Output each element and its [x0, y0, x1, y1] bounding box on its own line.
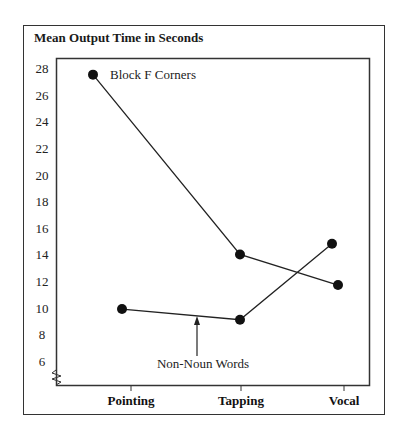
x-category-label: Vocal	[329, 393, 360, 408]
y-tick-label: 24	[36, 114, 50, 129]
series-line	[93, 75, 338, 285]
x-category-label: Pointing	[108, 393, 155, 408]
block-f-corners-label: Block F Corners	[110, 67, 196, 82]
x-axis-ticks: PointingTappingVocal	[108, 386, 360, 408]
non-noun-words-label: Non-Noun Words	[157, 356, 249, 371]
y-tick-label: 6	[39, 354, 46, 369]
y-tick-label: 8	[39, 327, 46, 342]
data-point	[235, 315, 245, 325]
y-axis-ticks: 6810121416182022242628	[36, 61, 50, 369]
y-tick-label: 22	[36, 141, 49, 156]
data-point	[333, 280, 343, 290]
y-tick-label: 12	[36, 274, 49, 289]
y-tick-label: 20	[36, 168, 49, 183]
series-lines	[88, 70, 343, 325]
data-point	[327, 239, 337, 249]
arrow-head-icon	[194, 316, 200, 325]
y-tick-label: 26	[36, 88, 50, 103]
y-tick-label: 18	[36, 194, 49, 209]
data-point	[117, 304, 127, 314]
y-tick-label: 16	[36, 221, 50, 236]
y-tick-label: 14	[36, 247, 50, 262]
data-point	[88, 70, 98, 80]
y-tick-label: 10	[36, 301, 49, 316]
y-tick-label: 28	[36, 61, 49, 76]
data-point	[235, 249, 245, 259]
x-category-label: Tapping	[218, 393, 264, 408]
series-line	[122, 244, 332, 320]
chart-plot: 6810121416182022242628 PointingTappingVo…	[0, 0, 403, 436]
